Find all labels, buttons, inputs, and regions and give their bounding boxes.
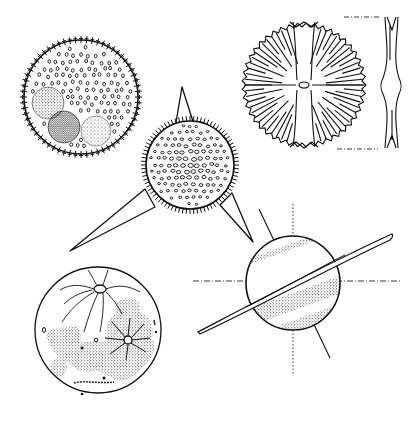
spiny-colony-sphere	[20, 36, 142, 158]
radial-disc-side-profile	[381, 17, 402, 148]
illustration-canvas	[0, 0, 420, 424]
moon-like-sphere	[35, 267, 161, 395]
illustration-svg	[0, 0, 420, 424]
radial-disc	[242, 17, 401, 149]
